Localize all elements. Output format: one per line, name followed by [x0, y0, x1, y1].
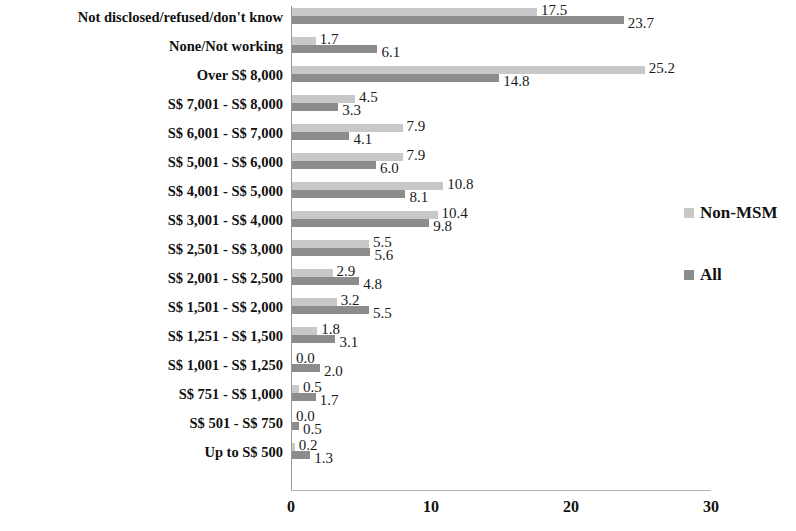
bar-non-msm [292, 443, 295, 451]
chart-category-row: S$ 501 - S$ 7500.00.5 [291, 413, 711, 442]
x-axis-tick-label: 10 [423, 498, 439, 516]
bar-non-msm [292, 211, 438, 219]
category-label: S$ 2,501 - S$ 3,000 [0, 239, 283, 259]
category-label: S$ 6,001 - S$ 7,000 [0, 123, 283, 143]
bar-all [292, 422, 299, 430]
bar-value-label-all: 3.3 [342, 103, 361, 118]
bar-all [292, 190, 405, 198]
category-label: S$ 2,001 - S$ 2,500 [0, 268, 283, 288]
chart-category-row: S$ 4,001 - S$ 5,00010.88.1 [291, 181, 711, 210]
bar-value-label-all: 1.3 [314, 451, 333, 466]
legend-label-all: All [700, 265, 722, 285]
bar-value-label-all: 8.1 [409, 190, 428, 205]
bar-all [292, 16, 624, 24]
chart-category-row: S$ 5,001 - S$ 6,0007.96.0 [291, 152, 711, 181]
x-axis-tick-label: 0 [287, 498, 295, 516]
bar-all [292, 161, 376, 169]
category-label: Up to S$ 500 [0, 442, 283, 462]
bar-value-label-non-msm: 10.8 [447, 177, 473, 192]
bar-value-label-non-msm: 25.2 [649, 61, 675, 76]
chart-category-row: Over S$ 8,00025.214.8 [291, 65, 711, 94]
bar-non-msm [292, 385, 299, 393]
bar-all [292, 103, 338, 111]
bar-all [292, 364, 320, 372]
bar-all [292, 132, 349, 140]
category-label: Over S$ 8,000 [0, 65, 283, 85]
category-label: S$ 7,001 - S$ 8,000 [0, 94, 283, 114]
bar-value-label-all: 5.5 [373, 306, 392, 321]
legend-item-all: All [684, 265, 722, 285]
bar-non-msm [292, 298, 337, 306]
chart-category-row: S$ 7,001 - S$ 8,0004.53.3 [291, 94, 711, 123]
bar-all [292, 219, 429, 227]
bar-non-msm [292, 8, 537, 16]
bar-all [292, 45, 377, 53]
bar-value-label-all: 6.1 [381, 45, 400, 60]
category-label: None/Not working [0, 36, 283, 56]
bar-non-msm [292, 240, 369, 248]
legend-label-non-msm: Non-MSM [700, 203, 777, 223]
bar-value-label-all: 5.6 [374, 248, 393, 263]
bar-non-msm [292, 269, 333, 277]
category-label: S$ 1,001 - S$ 1,250 [0, 355, 283, 375]
category-label: S$ 4,001 - S$ 5,000 [0, 181, 283, 201]
x-axis-tick-label: 30 [703, 498, 719, 516]
income-distribution-bar-chart: Not disclosed/refused/don't know17.523.7… [0, 0, 796, 531]
category-label: S$ 751 - S$ 1,000 [0, 384, 283, 404]
bar-value-label-all: 4.8 [363, 277, 382, 292]
bar-non-msm [292, 327, 317, 335]
legend-swatch-all [684, 270, 694, 280]
chart-category-row: Up to S$ 5000.21.3 [291, 442, 711, 471]
chart-category-row: S$ 1,251 - S$ 1,5001.83.1 [291, 326, 711, 355]
bar-value-label-all: 14.8 [503, 74, 529, 89]
chart-category-row: S$ 6,001 - S$ 7,0007.94.1 [291, 123, 711, 152]
bar-value-label-all: 2.0 [324, 364, 343, 379]
bar-value-label-all: 9.8 [433, 219, 452, 234]
bar-value-label-all: 1.7 [320, 393, 339, 408]
chart-category-row: S$ 1,501 - S$ 2,0003.25.5 [291, 297, 711, 326]
bar-non-msm [292, 66, 645, 74]
category-label: S$ 1,251 - S$ 1,500 [0, 326, 283, 346]
chart-category-row: S$ 751 - S$ 1,0000.51.7 [291, 384, 711, 413]
bar-value-label-all: 4.1 [353, 132, 372, 147]
bar-all [292, 248, 370, 256]
bar-non-msm [292, 37, 316, 45]
category-label: Not disclosed/refused/don't know [0, 7, 283, 27]
bar-value-label-all: 0.5 [303, 422, 322, 437]
bar-all [292, 277, 359, 285]
plot-area: Not disclosed/refused/don't know17.523.7… [291, 6, 711, 490]
category-label: S$ 3,001 - S$ 4,000 [0, 210, 283, 230]
bar-value-label-all: 6.0 [380, 161, 399, 176]
category-label: S$ 1,501 - S$ 2,000 [0, 297, 283, 317]
bar-all [292, 306, 369, 314]
category-label: S$ 5,001 - S$ 6,000 [0, 152, 283, 172]
bar-value-label-non-msm: 7.9 [407, 119, 426, 134]
bar-value-label-non-msm: 7.9 [407, 148, 426, 163]
bar-all [292, 393, 316, 401]
bar-value-label-non-msm: 4.5 [359, 90, 378, 105]
bar-non-msm [292, 124, 403, 132]
x-axis-line [291, 490, 711, 491]
legend-item-non-msm: Non-MSM [684, 203, 777, 223]
bar-value-label-all: 3.1 [339, 335, 358, 350]
chart-category-row: Not disclosed/refused/don't know17.523.7 [291, 7, 711, 36]
category-label: S$ 501 - S$ 750 [0, 413, 283, 433]
chart-category-row: S$ 3,001 - S$ 4,00010.49.8 [291, 210, 711, 239]
bar-all [292, 335, 335, 343]
chart-category-row: S$ 1,001 - S$ 1,2500.02.0 [291, 355, 711, 384]
bar-all [292, 74, 499, 82]
bar-value-label-all: 23.7 [628, 16, 654, 31]
legend-swatch-non-msm [684, 208, 694, 218]
x-axis-tick-label: 20 [563, 498, 579, 516]
bar-all [292, 451, 310, 459]
